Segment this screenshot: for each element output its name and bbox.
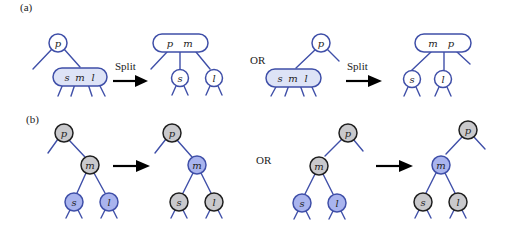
edge bbox=[78, 210, 82, 218]
panel-a-label: (a) bbox=[20, 1, 33, 14]
node-s-key: s bbox=[409, 74, 414, 85]
edge bbox=[66, 210, 70, 218]
node-l-key: l bbox=[212, 73, 215, 84]
node-m-key: m bbox=[85, 160, 94, 171]
edge bbox=[306, 211, 310, 219]
b-case2-before-tree: p m s l bbox=[293, 124, 363, 219]
node-key-p: p bbox=[448, 38, 455, 49]
edge bbox=[183, 210, 187, 218]
edge bbox=[113, 210, 117, 218]
node-key-m: m bbox=[428, 38, 437, 49]
edge bbox=[206, 210, 210, 218]
edge bbox=[183, 173, 193, 193]
edge bbox=[77, 173, 86, 193]
node-key-l: l bbox=[91, 72, 94, 83]
node-l-key: l bbox=[456, 197, 459, 208]
or-label-a: OR bbox=[250, 54, 266, 66]
edge bbox=[353, 139, 363, 151]
edge bbox=[416, 87, 420, 96]
node-l-key: l bbox=[441, 74, 444, 85]
edge bbox=[341, 211, 345, 219]
edge bbox=[184, 86, 188, 95]
node-key-m: m bbox=[288, 73, 297, 84]
a-case1-after-tree: p m s l bbox=[151, 34, 223, 95]
edge bbox=[327, 49, 339, 61]
node-p-key: p bbox=[345, 128, 352, 139]
node-mp bbox=[415, 34, 471, 52]
arrowhead-icon bbox=[135, 75, 148, 87]
b-case1-after-tree: p m s l bbox=[155, 124, 223, 218]
node-key-m: m bbox=[183, 38, 192, 49]
edge bbox=[404, 87, 408, 96]
edge bbox=[177, 140, 192, 157]
edge bbox=[206, 86, 210, 95]
panel-b-label: (b) bbox=[26, 113, 39, 126]
edge bbox=[325, 139, 342, 156]
arrowhead-icon bbox=[368, 75, 382, 87]
node-s-key: s bbox=[420, 197, 425, 208]
edge bbox=[33, 49, 52, 69]
a-case2-before-tree: p s m l bbox=[266, 34, 339, 96]
node-key-m: m bbox=[75, 72, 84, 83]
edge bbox=[151, 52, 167, 69]
edge bbox=[305, 174, 315, 194]
a-case1-before-tree: p s m l bbox=[33, 34, 107, 96]
edge bbox=[446, 137, 462, 154]
b-case1-before-tree: p m s l bbox=[48, 124, 118, 218]
node-p-key: p bbox=[55, 38, 62, 49]
or-label-b: OR bbox=[256, 154, 272, 166]
node-pm bbox=[153, 34, 208, 52]
arrowhead-icon bbox=[399, 160, 413, 172]
edge bbox=[64, 49, 80, 67]
edge bbox=[218, 86, 222, 95]
node-l-key: l bbox=[212, 197, 215, 208]
edge bbox=[171, 210, 175, 218]
node-p-key: p bbox=[465, 125, 472, 136]
node-m-key: m bbox=[314, 161, 323, 172]
edge bbox=[457, 52, 470, 64]
node-l-key: l bbox=[335, 198, 338, 209]
arrowhead-icon bbox=[136, 160, 150, 172]
edge bbox=[445, 173, 455, 193]
edge bbox=[329, 211, 333, 219]
node-key-s: s bbox=[64, 72, 69, 83]
split-label-2: Split bbox=[347, 60, 368, 72]
node-s-key: s bbox=[299, 198, 304, 209]
edge bbox=[447, 87, 451, 96]
edge bbox=[415, 210, 419, 218]
node-key-p: p bbox=[167, 38, 174, 49]
edge bbox=[435, 87, 439, 96]
node-p-key: p bbox=[169, 128, 176, 139]
edge bbox=[155, 139, 166, 153]
b-case2-after-tree: p m s l bbox=[414, 121, 485, 218]
node-m-key: m bbox=[436, 160, 445, 171]
edge bbox=[427, 210, 431, 218]
edge bbox=[462, 210, 466, 218]
a-case2-after-tree: m p s l bbox=[404, 34, 472, 96]
node-l-key: l bbox=[107, 197, 110, 208]
node-p-key: p bbox=[61, 128, 68, 139]
edge bbox=[94, 173, 105, 193]
edge bbox=[474, 137, 485, 149]
edge bbox=[296, 49, 316, 68]
node-s-key: s bbox=[176, 197, 181, 208]
node-p-key: p bbox=[318, 38, 325, 49]
edge bbox=[172, 86, 176, 95]
edge bbox=[450, 210, 454, 218]
edge bbox=[218, 210, 222, 218]
edge bbox=[294, 211, 298, 219]
edge bbox=[196, 52, 210, 69]
edge bbox=[426, 173, 436, 193]
node-s-key: s bbox=[71, 197, 76, 208]
node-key-s: s bbox=[277, 73, 282, 84]
diagram-canvas: (a) p s m l Split p m s l OR bbox=[0, 0, 513, 230]
edge bbox=[323, 174, 333, 194]
edge bbox=[201, 173, 211, 193]
split-label-1: Split bbox=[115, 60, 136, 72]
edge bbox=[101, 210, 105, 218]
node-s-key: s bbox=[177, 73, 182, 84]
edge bbox=[48, 139, 58, 153]
node-key-l: l bbox=[304, 73, 307, 84]
node-m-key: m bbox=[192, 160, 201, 171]
edge bbox=[412, 52, 431, 70]
